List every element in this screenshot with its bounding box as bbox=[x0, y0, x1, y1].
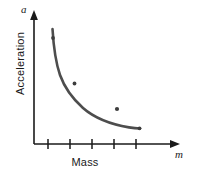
data-point-marker bbox=[51, 36, 55, 40]
data-point-marker bbox=[138, 126, 142, 130]
x-axis-symbol: m bbox=[175, 149, 183, 160]
plot-area bbox=[0, 0, 198, 183]
y-axis-title: Acceleration bbox=[15, 14, 26, 114]
x-axis-arrow-icon bbox=[170, 140, 180, 148]
y-axis-arrow-icon bbox=[30, 10, 38, 20]
x-axis-title: Mass bbox=[0, 157, 170, 168]
data-curve bbox=[53, 29, 141, 129]
data-point-marker bbox=[73, 82, 77, 86]
acceleration-vs-mass-figure: a m Mass Acceleration bbox=[0, 0, 198, 183]
data-point-marker bbox=[115, 107, 119, 111]
